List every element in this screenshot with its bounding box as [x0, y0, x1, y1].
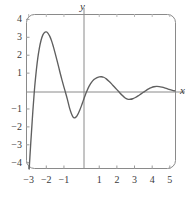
x-tick-label: 1 — [97, 175, 102, 185]
y-tick-label: 3 — [8, 32, 22, 42]
x-tick-label: −3 — [23, 175, 34, 185]
x-tick-label: 5 — [167, 175, 172, 185]
graph-figure: y x −3−2−112345 4321−1−2−3−4 — [0, 0, 194, 197]
y-tick-label: −3 — [8, 140, 22, 150]
y-tick-label: 1 — [8, 68, 22, 78]
plot-canvas — [0, 0, 194, 197]
y-axis-label: y — [80, 1, 85, 12]
x-axis-label: x — [180, 85, 185, 96]
y-tick-label: 4 — [8, 14, 22, 24]
function-curve — [29, 32, 175, 169]
y-tick-label: −2 — [8, 122, 22, 132]
x-tick-label: 4 — [150, 175, 155, 185]
x-tick-label: 2 — [114, 175, 119, 185]
x-tick-label: −1 — [59, 175, 70, 185]
y-tick-label: −4 — [8, 158, 22, 168]
y-tick-label: −1 — [8, 104, 22, 114]
x-tick-label: −2 — [41, 175, 52, 185]
x-tick-label: 3 — [132, 175, 137, 185]
y-tick-label: 2 — [8, 50, 22, 60]
